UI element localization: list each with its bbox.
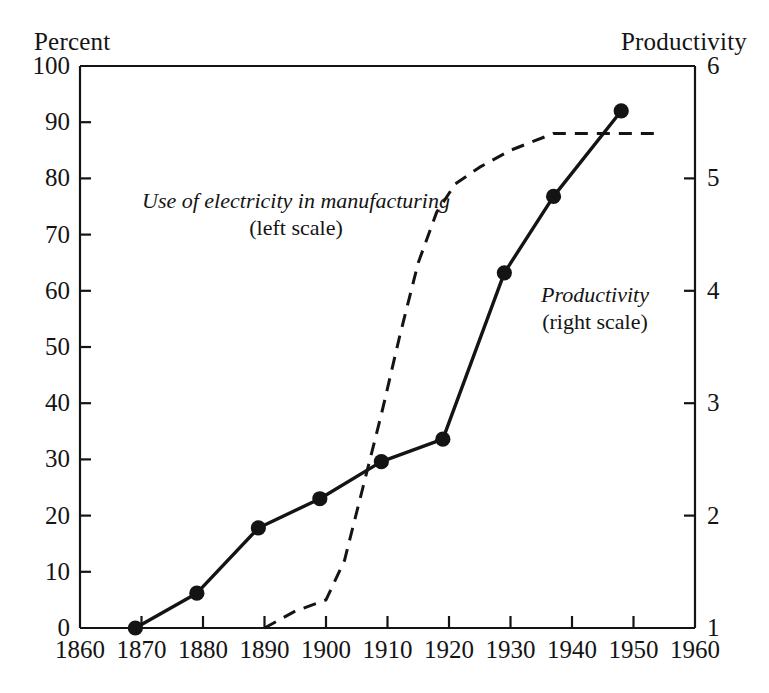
data-point-marker (614, 103, 629, 118)
data-markers (128, 103, 629, 635)
axis-ticks (80, 122, 695, 628)
data-point-marker (546, 189, 561, 204)
data-point-marker (251, 520, 266, 535)
data-series (135, 111, 658, 628)
series-line-electricity (265, 133, 659, 628)
data-point-marker (374, 454, 389, 469)
data-point-marker (435, 432, 450, 447)
chart-figure: Percent Productivity 0102030405060708090… (0, 0, 769, 693)
data-point-marker (128, 620, 143, 635)
data-point-marker (312, 491, 327, 506)
axes (80, 66, 695, 628)
series-line-productivity (135, 111, 621, 628)
plot-area (0, 0, 769, 693)
data-point-marker (189, 586, 204, 601)
data-point-marker (497, 265, 512, 280)
